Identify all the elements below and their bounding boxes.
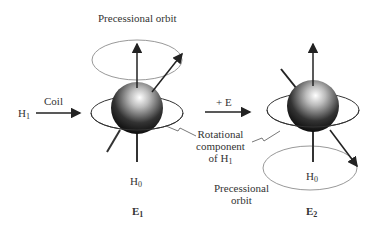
magnetic-moment-e1 bbox=[152, 54, 182, 92]
h0-right-text: H bbox=[306, 170, 314, 182]
label-e1: E1 bbox=[132, 205, 143, 221]
label-h0-left: H0 bbox=[130, 175, 142, 191]
sphere-e1 bbox=[111, 82, 163, 134]
tilted-axis-above-e2 bbox=[281, 69, 297, 89]
label-h0-right: H0 bbox=[306, 170, 318, 186]
nmr-spin-diagram bbox=[0, 0, 377, 228]
label-e2: E2 bbox=[306, 205, 317, 221]
leader-left bbox=[166, 126, 196, 136]
rotational-subscript: 1 bbox=[228, 157, 232, 166]
leader-right bbox=[252, 131, 280, 142]
rotational-line-1: Rotational bbox=[196, 128, 245, 140]
nucleus-e2 bbox=[263, 44, 359, 190]
tilted-axis-below-e1 bbox=[107, 130, 120, 152]
label-coil: Coil bbox=[44, 95, 63, 107]
e2-subscript: 2 bbox=[313, 210, 317, 219]
rotational-line-2: component bbox=[196, 140, 245, 152]
h0-left-subscript: 0 bbox=[138, 180, 142, 189]
h0-left-text: H bbox=[130, 175, 138, 187]
precessional-bottom-line-2: orbit bbox=[214, 194, 269, 206]
label-precessional-orbit-top: Precessional orbit bbox=[98, 12, 177, 24]
magnetic-moment-e2 bbox=[330, 130, 357, 166]
label-plus-e: + E bbox=[216, 96, 232, 108]
rotational-line-3-text: of H bbox=[209, 152, 229, 164]
rotational-line-3: of H1 bbox=[196, 152, 245, 168]
nucleus-e1 bbox=[91, 40, 183, 162]
precessional-bottom-line-1: Precessional bbox=[214, 182, 269, 194]
sphere-e2 bbox=[287, 80, 339, 132]
label-h1: H1 bbox=[18, 107, 30, 123]
h1-subscript: 1 bbox=[26, 112, 30, 121]
e1-subscript: 1 bbox=[139, 210, 143, 219]
label-rotational-component: Rotational component of H1 bbox=[196, 128, 245, 168]
label-precessional-orbit-bottom: Precessional orbit bbox=[214, 182, 269, 206]
h0-right-subscript: 0 bbox=[314, 175, 318, 184]
h1-text: H bbox=[18, 107, 26, 119]
